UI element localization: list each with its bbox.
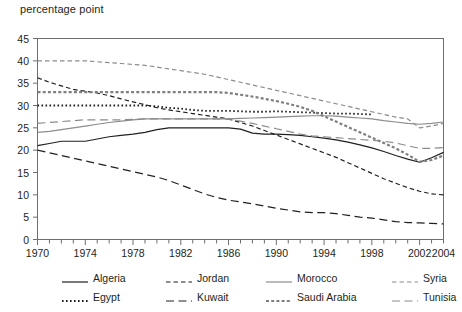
legend-label: Saudi Arabia	[297, 291, 357, 303]
x-tick-label: 1974	[65, 248, 105, 259]
data-series-group	[38, 61, 444, 224]
legend-label: Tunisia	[423, 291, 456, 303]
legend-item-saudi-arabia[interactable]: Saudi Arabia	[266, 287, 392, 306]
legend-item-morocco[interactable]: Morocco	[266, 268, 392, 287]
legend-item-algeria[interactable]: Algeria	[62, 268, 166, 287]
y-tick-label: 30	[5, 101, 29, 111]
legend-swatch-icon	[62, 273, 88, 283]
y-tick-label: 20	[5, 145, 29, 155]
x-tick-label: 1978	[113, 248, 153, 259]
y-tick-label: 40	[5, 56, 29, 66]
chart-container: percentage point 454035302520151050 1970…	[0, 0, 462, 312]
legend-swatch-icon	[166, 292, 192, 302]
legend-label: Kuwait	[197, 291, 229, 303]
plot-area	[0, 0, 462, 312]
series-line-kuwait	[38, 150, 444, 224]
y-tick-label: 0	[5, 235, 29, 245]
legend-swatch-icon	[62, 292, 88, 302]
series-line-egypt	[38, 106, 372, 115]
legend-label: Morocco	[297, 272, 337, 284]
legend-label: Egypt	[93, 291, 120, 303]
legend-item-jordan[interactable]: Jordan	[166, 268, 266, 287]
y-tick-label: 15	[5, 168, 29, 178]
series-line-algeria	[38, 128, 444, 162]
x-tick-label: 1994	[304, 248, 344, 259]
legend-item-egypt[interactable]: Egypt	[62, 287, 166, 306]
legend-swatch-icon	[266, 292, 292, 302]
legend-swatch-icon	[392, 273, 418, 283]
legend-label: Algeria	[93, 272, 126, 284]
y-tick-label: 5	[5, 212, 29, 222]
chart-legend: AlgeriaJordanMoroccoSyriaEgyptKuwaitSaud…	[62, 268, 450, 308]
legend-label: Jordan	[197, 272, 229, 284]
legend-swatch-icon	[392, 292, 418, 302]
y-tick-label: 10	[5, 190, 29, 200]
x-tick-label: 2004	[424, 248, 462, 259]
legend-item-kuwait[interactable]: Kuwait	[166, 287, 266, 306]
x-tick-label: 1998	[352, 248, 392, 259]
y-tick-label: 35	[5, 78, 29, 88]
legend-item-tunisia[interactable]: Tunisia	[392, 287, 450, 306]
x-tick-label: 1986	[209, 248, 249, 259]
x-tick-label: 1982	[161, 248, 201, 259]
legend-item-syria[interactable]: Syria	[392, 268, 450, 287]
y-tick-label: 25	[5, 123, 29, 133]
legend-row: AlgeriaJordanMoroccoSyria	[62, 268, 450, 287]
legend-swatch-icon	[266, 273, 292, 283]
y-tick-label: 45	[5, 34, 29, 44]
x-tick-label: 1990	[256, 248, 296, 259]
legend-label: Syria	[423, 272, 447, 284]
legend-row: EgyptKuwaitSaudi ArabiaTunisia	[62, 287, 450, 306]
x-tick-label: 1970	[18, 248, 58, 259]
series-line-morocco	[38, 116, 444, 133]
legend-swatch-icon	[166, 273, 192, 283]
series-line-tunisia	[38, 119, 444, 148]
axis-ticks	[33, 39, 444, 246]
